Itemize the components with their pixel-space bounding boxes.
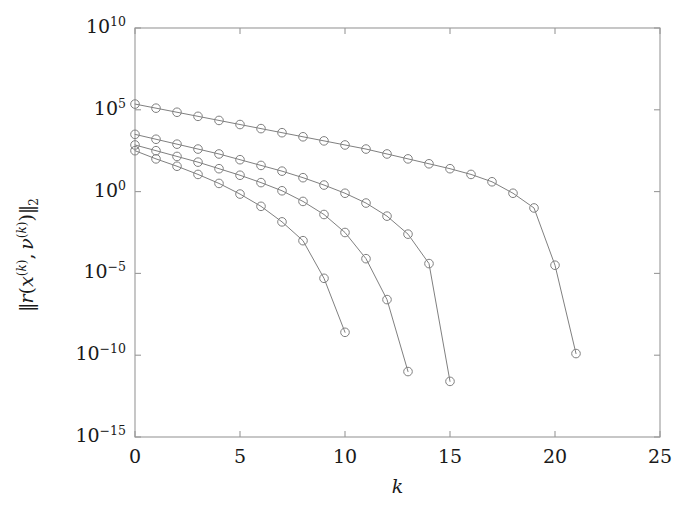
- y-tick-exponent: −10: [100, 341, 126, 356]
- x-tick-label-20: 20: [525, 445, 585, 467]
- norm-subscript-glyph: 2: [27, 197, 41, 205]
- plot-frame: [135, 28, 660, 437]
- series-line-curve-2: [135, 145, 408, 372]
- comma-glyph: ,: [15, 249, 37, 259]
- x-variable-glyph: x: [15, 276, 37, 287]
- nu-superscript-glyph: (k): [15, 221, 29, 238]
- data-series-group: [131, 100, 581, 386]
- y-tick-label--10: 10−10: [75, 342, 126, 364]
- residual-r-glyph: r: [15, 294, 37, 303]
- y-tick-exponent: −5: [108, 259, 126, 274]
- paren-close-glyph: ): [15, 214, 37, 221]
- y-axis-title: ‖r(x(k), ν(k))‖2: [15, 197, 37, 311]
- series-curve-4: [131, 100, 581, 358]
- nu-variable-glyph: ν: [15, 238, 37, 250]
- figure-canvas: 101010510010−510−1010−15 0510152025 ‖r(x…: [0, 0, 693, 509]
- y-tick-exponent: 0: [118, 177, 126, 192]
- series-line-curve-1: [135, 151, 345, 333]
- y-tick-label-0: 100: [94, 179, 126, 201]
- y-tick-exponent: −15: [100, 423, 126, 438]
- paren-open-glyph: (: [15, 286, 37, 293]
- y-tick-mantissa: 10: [83, 260, 107, 282]
- norm-close-glyph: ‖: [15, 205, 37, 214]
- y-tick-label--15: 10−15: [75, 424, 126, 446]
- y-tick-label-5: 105: [94, 97, 126, 119]
- x-tick-label-10: 10: [315, 445, 375, 467]
- y-tick-exponent: 10: [110, 14, 126, 29]
- y-tick-mantissa: 10: [86, 15, 110, 37]
- y-tick-mantissa: 10: [75, 342, 99, 364]
- y-tick-mantissa: 10: [94, 97, 118, 119]
- series-curve-2: [131, 141, 413, 376]
- y-tick-label--5: 10−5: [83, 260, 126, 282]
- x-tick-label-15: 15: [420, 445, 480, 467]
- y-tick-label-10: 1010: [86, 15, 126, 37]
- y-tick-mantissa: 10: [94, 179, 118, 201]
- x-axis-title: k: [378, 475, 418, 497]
- y-tick-exponent: 5: [118, 95, 126, 110]
- x-tick-label-25: 25: [630, 445, 690, 467]
- y-tick-mantissa: 10: [75, 424, 99, 446]
- axis-ticks: [135, 28, 660, 437]
- series-curve-3: [131, 130, 455, 386]
- axes-frame: [135, 28, 660, 437]
- series-line-curve-4: [135, 104, 576, 353]
- x-tick-label-5: 5: [210, 445, 270, 467]
- x-tick-label-0: 0: [105, 445, 165, 467]
- norm-open-glyph: ‖: [15, 303, 37, 312]
- y-axis-title-wrap: ‖r(x(k), ν(k))‖2: [6, 0, 46, 509]
- x-superscript-glyph: (k): [15, 259, 29, 276]
- series-line-curve-3: [135, 134, 450, 381]
